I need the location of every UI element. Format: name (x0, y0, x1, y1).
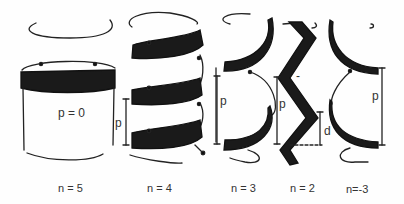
pitch-arrow-n4 (214, 76, 220, 144)
label-pitch-n2: p (279, 97, 286, 111)
panel-n5 (21, 20, 115, 160)
caption-n3: n = 3 (231, 182, 256, 194)
helix-diagram: p = 0 p p p - d p n = 5 n = 4 n = 3 n = … (0, 0, 404, 204)
label-tick-n2: - (296, 69, 300, 83)
label-pitch-n3: p (220, 94, 227, 108)
caption-n-minus3: n=-3 (346, 183, 368, 195)
diagram-svg: p = 0 p p p - d p n = 5 n = 4 n = 3 n = … (0, 0, 404, 204)
panel-n3 (216, 14, 276, 163)
caption-n2: n = 2 (290, 182, 315, 194)
caption-n4: n = 4 (147, 182, 172, 194)
panel-n2 (274, 22, 323, 165)
label-pitch-nm3: p (372, 89, 379, 103)
label-rise-d: d (324, 124, 331, 138)
panel-n4 (123, 12, 205, 163)
caption-n5: n = 5 (58, 182, 83, 194)
label-p-zero: p = 0 (58, 106, 85, 120)
label-pitch-n4: p (115, 116, 122, 130)
